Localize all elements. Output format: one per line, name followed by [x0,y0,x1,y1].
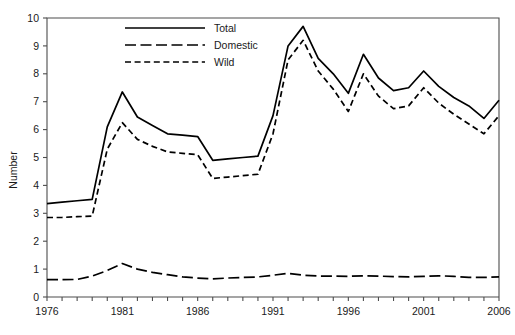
y-axis-title: Number [7,151,19,189]
x-tick-label: 1991 [261,305,285,317]
x-tick-label: 1981 [111,305,135,317]
series-line-total [47,26,499,203]
series-line-wild [47,40,499,217]
legend-label-total: Total [214,22,236,34]
y-tick-label: 3 [33,207,39,219]
series-line-domestic [47,264,499,280]
chart-legend: TotalDomesticWild [125,22,258,68]
y-tick-label: 10 [27,12,39,24]
x-tick-label: 1976 [35,305,59,317]
x-tick-label: 1986 [186,305,210,317]
legend-label-domestic: Domestic [214,39,258,51]
x-tick-label: 1996 [337,305,361,317]
chart-figure: 012345678910 197619811986199119962001200… [0,0,515,335]
data-series-group [47,26,499,279]
plot-border [47,18,499,297]
x-tick-label: 2001 [412,305,436,317]
y-tick-label: 1 [33,263,39,275]
y-tick-label: 4 [33,179,39,191]
legend-label-wild: Wild [214,56,235,68]
x-tick-label: 2006 [487,305,511,317]
y-tick-label: 7 [33,95,39,107]
y-tick-label: 8 [33,67,39,79]
line-chart-canvas: 012345678910 197619811986199119962001200… [0,0,515,335]
y-tick-label: 2 [33,235,39,247]
y-tick-label: 6 [33,123,39,135]
y-tick-label: 9 [33,40,39,52]
y-tick-label: 5 [33,151,39,163]
y-tick-label: 0 [33,291,39,303]
y-axis-ticks: 012345678910 [27,12,47,303]
plot-frame [47,18,499,297]
x-axis-ticks: 1976198119861991199620012006 [35,297,511,317]
